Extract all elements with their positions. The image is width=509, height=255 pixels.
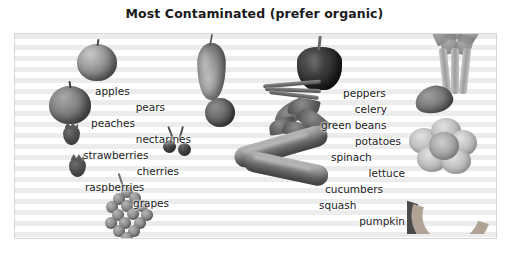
label-green-beans: green beans — [321, 119, 386, 131]
page-title: Most Contaminated (prefer organic) — [0, 6, 509, 21]
label-nectarines: nectarines — [71, 133, 191, 145]
pepper-illustration — [297, 47, 342, 90]
label-pears: pears — [75, 101, 165, 113]
grapes-illustration — [103, 186, 165, 239]
cucumber-illustration-1 — [232, 123, 330, 170]
label-peppers: peppers — [343, 87, 386, 99]
label-strawberries: strawberries — [83, 149, 148, 161]
label-apples: apples — [95, 85, 130, 97]
label-cucumbers: cucumbers — [325, 183, 383, 195]
pear-illustration — [197, 43, 225, 100]
label-grapes: grapes — [81, 197, 169, 209]
label-potatoes: potatoes — [317, 135, 401, 147]
label-lettuce: lettuce — [319, 167, 405, 179]
potato-illustration — [412, 82, 455, 117]
green-beans-illustration — [263, 80, 325, 100]
cucumber-illustration-2 — [242, 149, 330, 187]
nectarine-illustration — [205, 98, 235, 127]
label-peaches: peaches — [91, 117, 135, 129]
label-squash: squash — [319, 199, 356, 211]
celery-illustration — [427, 33, 497, 94]
label-raspberries: raspberries — [85, 181, 144, 193]
label-cherries: cherries — [75, 165, 179, 177]
produce-panel: apples pears peaches nectarines strawber… — [14, 33, 497, 239]
label-celery: celery — [323, 103, 387, 115]
pumpkin-illustration — [407, 170, 493, 234]
apple-illustration — [77, 44, 117, 81]
label-spinach: spinach — [331, 151, 372, 163]
lettuce-illustration — [409, 118, 479, 180]
label-pumpkin: pumpkin — [323, 215, 405, 227]
